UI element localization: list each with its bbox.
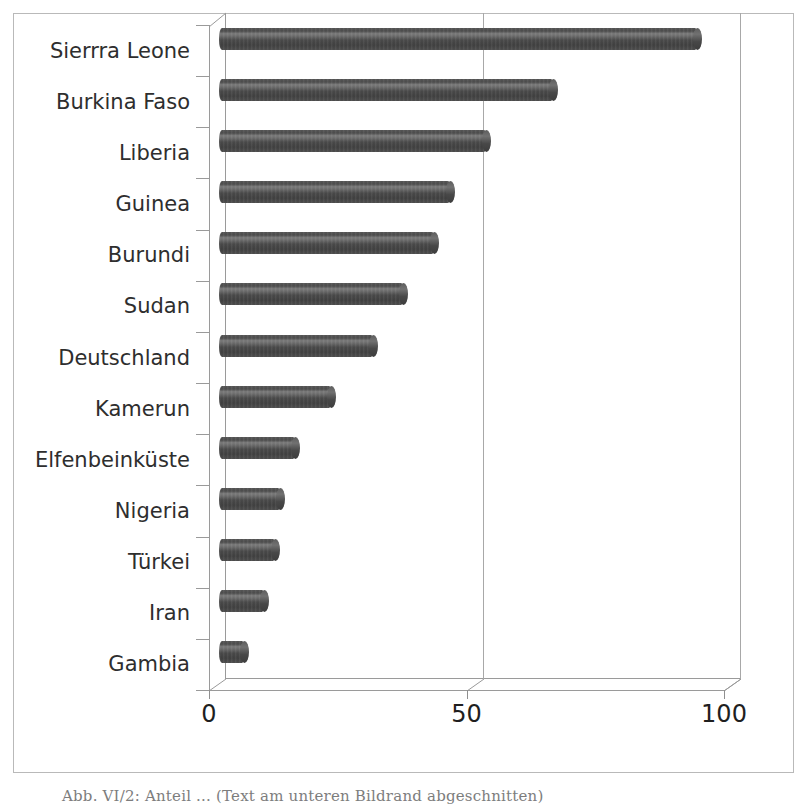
bar-texture [219,488,281,510]
bar-end-cap [327,386,336,408]
bar-10 [219,539,276,561]
grid-floor-diagonal-50 [466,678,486,694]
bar-end-cap [260,590,269,612]
bar-texture [219,79,554,101]
category-tick-12 [196,639,209,640]
category-label-3: Guinea [8,192,190,216]
category-tick-2 [196,127,209,128]
bar-texture [219,437,296,459]
bar-end-cap [446,181,455,203]
category-label-8: Elfenbeinküste [8,448,190,472]
bar-2 [219,130,487,152]
category-label-2: Liberia [8,141,190,165]
bar-texture [219,386,332,408]
category-tick-13 [196,690,209,691]
bar-9 [219,488,281,510]
category-tick-7 [196,383,209,384]
category-tick-11 [196,588,209,589]
category-label-7: Kamerun [8,397,190,421]
bar-texture [219,28,698,50]
bar-end-cap [291,437,300,459]
category-label-6: Deutschland [8,346,190,370]
bar-end-cap [430,232,439,254]
bar-8 [219,437,296,459]
bar-end-cap [369,335,378,357]
category-tick-10 [196,537,209,538]
gridline-100 [740,13,741,679]
category-tick-4 [196,230,209,231]
scanned-page: Sierrra LeoneBurkina FasoLiberiaGuineaBu… [0,0,807,805]
value-axis-label-0: 0 [201,700,216,728]
value-tick-50 [467,690,468,699]
figure-caption-clipped: Abb. VI/2: Anteil ... (Text am unteren B… [0,790,807,805]
category-label-1: Burkina Faso [8,90,190,114]
bar-texture [219,539,276,561]
floor-diagonal-origin [208,678,228,694]
category-label-10: Türkei [8,550,190,574]
value-tick-100 [724,690,725,699]
bar-7 [219,386,332,408]
bar-0 [219,28,698,50]
bar-end-cap [399,283,408,305]
category-label-layer: Sierrra LeoneBurkina FasoLiberiaGuineaBu… [0,0,190,760]
category-tick-1 [196,76,209,77]
bar-texture [219,181,451,203]
bar-texture [219,590,265,612]
category-label-12: Gambia [8,652,190,676]
category-tick-9 [196,485,209,486]
category-tick-6 [196,332,209,333]
category-label-5: Sudan [8,294,190,318]
value-tick-0 [209,690,210,699]
bar-end-cap [271,539,280,561]
bar-texture [219,232,435,254]
figure-caption-text: Abb. VI/2: Anteil ... (Text am unteren B… [62,790,544,805]
bar-end-cap [482,130,491,152]
category-tick-0 [196,25,209,26]
bar-end-cap [693,28,702,50]
bar-11 [219,590,265,612]
category-tick-8 [196,434,209,435]
bar-end-cap [240,641,249,663]
bar-4 [219,232,435,254]
bar-3 [219,181,451,203]
bar-end-cap [549,79,558,101]
category-tick-3 [196,178,209,179]
category-label-11: Iran [8,601,190,625]
bar-6 [219,335,374,357]
value-axis-label-50: 50 [451,700,482,728]
bar-12 [219,641,245,663]
value-axis-label-100: 100 [701,700,747,728]
bar-1 [219,79,554,101]
category-label-4: Burundi [8,243,190,267]
category-tick-5 [196,281,209,282]
bar-chart: Sierrra LeoneBurkina FasoLiberiaGuineaBu… [0,0,781,760]
bar-end-cap [276,488,285,510]
category-label-0: Sierrra Leone [8,39,190,63]
bar-texture [219,130,487,152]
axis-perspective-diagonal [208,12,228,28]
gridline-50 [483,13,484,679]
grid-floor-diagonal-100 [723,678,743,694]
category-label-9: Nigeria [8,499,190,523]
category-axis-front [209,25,210,691]
bar-5 [219,283,404,305]
bar-texture [219,335,374,357]
bar-texture [219,283,404,305]
